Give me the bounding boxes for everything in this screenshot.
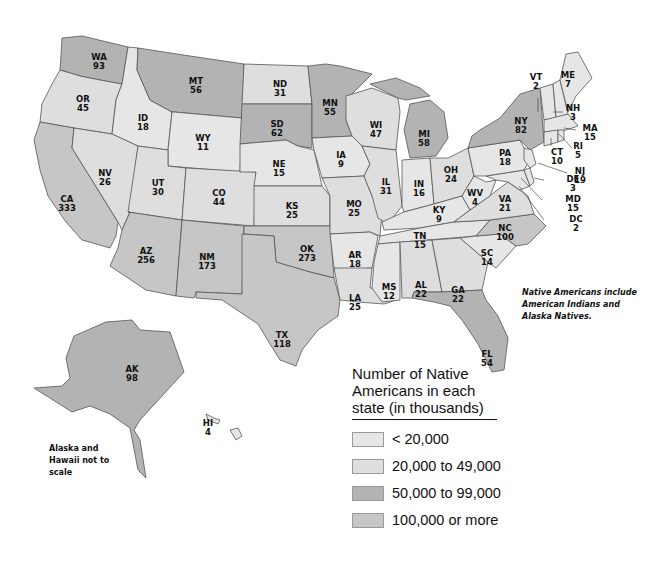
state-label-ar: AR18 — [348, 250, 362, 269]
state-label-ga: GA22 — [451, 285, 465, 304]
state-label-ks: KS25 — [286, 201, 299, 220]
note-not-to-scale: Alaska and Hawaii not to scale — [49, 443, 129, 479]
state-label-ri: RI5 — [573, 141, 583, 160]
state-label-nv: NV26 — [98, 168, 112, 187]
legend-swatch — [352, 513, 384, 528]
state-label-pa: PA18 — [499, 148, 511, 167]
state-label-ma: MA15 — [582, 123, 597, 142]
state-label-nd: ND31 — [273, 79, 287, 98]
state-ny — [468, 88, 544, 150]
note-native-americans: Native Americans include American Indian… — [522, 287, 637, 323]
legend: Number of Native Americans in each state… — [352, 365, 612, 528]
legend-label: < 20,000 — [392, 431, 449, 447]
state-label-ak: AK98 — [125, 364, 139, 383]
state-label-nm: NM173 — [198, 252, 216, 271]
state-label-la: LA25 — [349, 293, 361, 312]
state-label-de: DE3 — [567, 174, 580, 193]
state-label-va: VA21 — [499, 194, 512, 213]
legend-title: Number of Native Americans in each state… — [352, 365, 497, 420]
legend-label: 50,000 to 99,000 — [392, 485, 501, 501]
state-label-mo: MO25 — [346, 199, 362, 218]
state-label-ne: NE15 — [273, 159, 286, 178]
state-label-al: AL22 — [415, 280, 428, 299]
legend-item-20k-49k: 20,000 to 49,000 — [352, 458, 612, 474]
legend-item-50k-99k: 50,000 to 99,000 — [352, 485, 612, 501]
legend-item-100k-plus: 100,000 or more — [352, 512, 612, 528]
state-label-ms: MS12 — [382, 282, 397, 301]
state-label-az: AZ256 — [137, 246, 155, 265]
legend-label: 20,000 to 49,000 — [392, 458, 501, 474]
state-hi — [230, 428, 242, 440]
legend-item-under-20k: < 20,000 — [352, 431, 612, 447]
state-label-hi: HI4 — [203, 418, 213, 437]
legend-swatch — [352, 486, 384, 501]
state-label-mn: MN55 — [322, 98, 338, 117]
state-label-oh: OH24 — [444, 165, 458, 184]
legend-swatch — [352, 432, 384, 447]
state-label-sd: SD62 — [270, 119, 283, 138]
state-label-il: IL31 — [380, 177, 392, 196]
state-label-wa: WA93 — [91, 52, 107, 71]
state-label-wi: WI47 — [370, 120, 383, 139]
state-label-ok: OK273 — [298, 244, 316, 263]
state-label-co: CO44 — [212, 188, 225, 207]
state-label-dc: DC2 — [569, 214, 582, 233]
state-label-or: OR45 — [76, 94, 90, 113]
state-label-ct: CT10 — [551, 147, 563, 166]
state-label-tn: TN15 — [414, 231, 427, 250]
state-label-mt: MT56 — [189, 76, 203, 95]
state-label-ca: CA333 — [58, 194, 76, 213]
state-label-mi: MI58 — [418, 129, 430, 148]
legend-label: 100,000 or more — [392, 512, 498, 528]
state-label-nc: NC100 — [496, 223, 514, 242]
state-label-ny: NY82 — [514, 116, 528, 135]
state-label-in: IN16 — [413, 179, 425, 198]
legend-swatch — [352, 459, 384, 474]
state-label-md: MD15 — [565, 194, 581, 213]
state-label-ut: UT30 — [152, 178, 165, 197]
state-label-id: ID18 — [137, 113, 149, 132]
state-label-sc: SC14 — [481, 248, 493, 267]
